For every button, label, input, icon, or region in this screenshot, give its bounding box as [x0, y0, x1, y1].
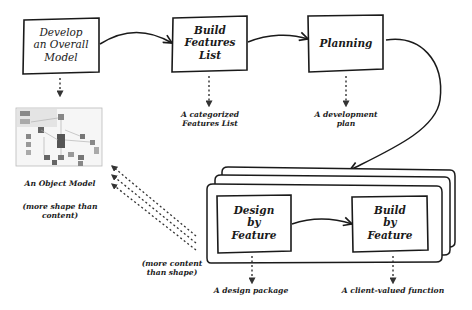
fdd-diagram: Develop an Overall Model Build Features …: [0, 0, 472, 310]
note-more-shape: (more shape than content): [10, 203, 110, 221]
output-features-list: A categorized Features List: [160, 111, 260, 129]
edge-features-to-planning: [248, 35, 308, 42]
output-object-model: An Object Model: [10, 180, 110, 189]
dots-iteration-to-model-3: [112, 184, 196, 250]
label-build-by-feature: Build by Feature: [352, 204, 428, 241]
note-more-content: (more content than shape): [134, 260, 210, 278]
label-design-by-feature: Design by Feature: [217, 204, 291, 241]
output-development-plan: A development plan: [296, 111, 396, 129]
label-develop-model: Develop an Overall Model: [23, 26, 99, 63]
output-client-function: A client-valued function: [333, 287, 453, 296]
output-design-package: A design package: [196, 287, 306, 296]
dots-iteration-to-model-2: [112, 175, 196, 243]
dots-iteration-to-model-1: [112, 166, 196, 236]
object-model-thumbnail: [16, 108, 102, 166]
label-planning: Planning: [308, 37, 384, 49]
label-build-features-list: Build Features List: [172, 24, 248, 61]
edge-model-to-features: [100, 33, 172, 44]
